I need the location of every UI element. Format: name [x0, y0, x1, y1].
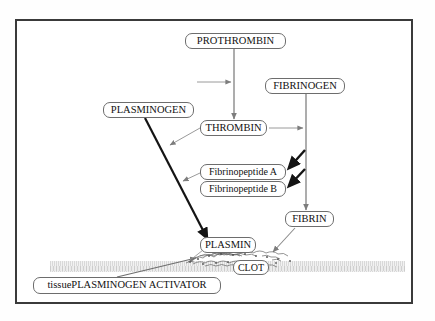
- node-plasmin-label: PLASMIN: [205, 240, 251, 251]
- node-tissue-plasminogen-activator[interactable]: tissue PLASMINOGEN ACTIVATOR: [33, 277, 221, 294]
- node-tpa-prefix-label: tissue: [47, 280, 71, 291]
- diagram-canvas: PROTHROMBIN FIBRINOGEN PLASMINOGEN THROM…: [0, 0, 435, 321]
- node-thrombin[interactable]: THROMBIN: [200, 120, 267, 136]
- node-fibrinopeptide-b-label: Fibrinopeptide B: [209, 184, 277, 194]
- node-thrombin-label: THROMBIN: [205, 123, 261, 134]
- node-plasminogen[interactable]: PLASMINOGEN: [103, 102, 194, 118]
- node-prothrombin[interactable]: PROTHROMBIN: [185, 33, 286, 49]
- node-fibrin-label: FIBRIN: [292, 214, 326, 225]
- node-tpa-main-label: PLASMINOGEN ACTIVATOR: [71, 280, 206, 291]
- node-clot-label: CLOT: [238, 263, 264, 273]
- node-fibrinopeptide-a[interactable]: Fibrinopeptide A: [200, 164, 286, 180]
- node-fibrinogen-label: FIBRINOGEN: [273, 81, 337, 92]
- vessel-wall-band-shadow: [50, 266, 405, 271]
- node-plasminogen-label: PLASMINOGEN: [111, 105, 186, 116]
- node-fibrin[interactable]: FIBRIN: [285, 211, 334, 227]
- node-plasmin[interactable]: PLASMIN: [200, 237, 256, 253]
- node-prothrombin-label: PROTHROMBIN: [197, 36, 275, 47]
- node-fibrinopeptide-a-label: Fibrinopeptide A: [209, 167, 277, 177]
- node-fibrinogen[interactable]: FIBRINOGEN: [265, 78, 345, 94]
- node-fibrinopeptide-b[interactable]: Fibrinopeptide B: [200, 181, 286, 197]
- node-clot[interactable]: CLOT: [233, 260, 269, 275]
